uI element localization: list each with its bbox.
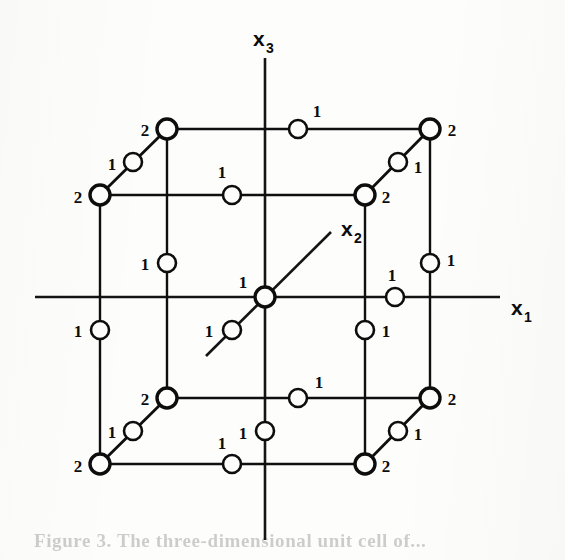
site-multiplicity-label: 1 xyxy=(108,155,117,174)
lattice-site: 2 xyxy=(355,454,390,476)
axis-label-x3-subscript: 3 xyxy=(266,40,274,56)
site-multiplicity-label: 1 xyxy=(205,322,214,341)
site-circle-icon xyxy=(389,422,407,440)
axis-label-x1: x xyxy=(511,296,523,319)
site-multiplicity-label: 1 xyxy=(382,322,391,341)
site-multiplicity-label: 2 xyxy=(141,390,150,409)
lattice-site: 2 xyxy=(141,119,177,140)
site-circle-icon xyxy=(157,119,177,139)
site-circle-icon xyxy=(255,287,275,307)
site-multiplicity-label: 2 xyxy=(74,188,83,207)
site-circle-icon xyxy=(256,422,274,440)
lattice-site: 1 xyxy=(289,373,323,407)
site-multiplicity-label: 1 xyxy=(315,373,324,392)
site-multiplicity-label: 2 xyxy=(382,188,391,207)
lattice-site: 2 xyxy=(74,185,110,207)
lattice-site: 1 xyxy=(389,153,422,177)
lattice-site: 1 xyxy=(289,102,321,138)
site-multiplicity-label: 1 xyxy=(108,423,117,442)
site-multiplicity-label: 2 xyxy=(448,390,457,409)
site-circle-icon xyxy=(355,454,375,474)
site-circle-icon xyxy=(223,455,241,473)
lattice-site: 2 xyxy=(141,388,177,409)
site-circle-icon xyxy=(421,254,439,272)
lattice-site: 1 xyxy=(421,251,455,272)
axis-label-x1-subscript: 1 xyxy=(524,309,532,325)
lattice-site: 1 xyxy=(239,422,274,443)
site-multiplicity-label: 1 xyxy=(414,425,423,444)
site-multiplicity-label: 1 xyxy=(388,266,397,285)
axis-label-x3: x xyxy=(253,27,265,50)
site-multiplicity-label: 1 xyxy=(74,322,83,341)
site-circle-icon xyxy=(389,153,407,171)
site-circle-icon xyxy=(223,321,241,339)
site-circle-icon xyxy=(90,454,110,474)
site-multiplicity-label: 1 xyxy=(239,424,248,443)
site-circle-icon xyxy=(91,321,109,339)
site-multiplicity-label: 2 xyxy=(448,121,457,140)
lattice-site: 1 xyxy=(141,254,176,274)
site-multiplicity-label: 1 xyxy=(218,163,227,182)
lattice-site: 2 xyxy=(420,119,456,140)
lattice-site: 1 xyxy=(386,266,404,306)
site-circle-icon xyxy=(223,186,241,204)
figure-canvas: 212112121111111212111212 x 1 x 2 x 3 Fig… xyxy=(0,0,565,560)
lattice-site: 1 xyxy=(356,321,390,341)
site-circle-icon xyxy=(289,389,307,407)
site-circle-icon xyxy=(158,254,176,272)
lattice-site: 2 xyxy=(355,185,390,207)
site-circle-icon xyxy=(356,321,374,339)
site-multiplicity-label: 1 xyxy=(414,158,423,177)
site-multiplicity-label: 1 xyxy=(218,434,227,453)
figure-caption: Figure 3. The three-dimensional unit cel… xyxy=(34,530,554,552)
axis-label-x2: x xyxy=(341,217,353,240)
lattice-site: 1 xyxy=(389,422,422,444)
site-multiplicity-label: 2 xyxy=(74,457,83,476)
site-circle-icon xyxy=(420,119,440,139)
site-multiplicity-label: 1 xyxy=(141,255,150,274)
site-circle-icon xyxy=(157,388,177,408)
site-circle-icon xyxy=(289,120,307,138)
site-multiplicity-label: 1 xyxy=(447,251,456,270)
site-multiplicity-label: 2 xyxy=(141,121,150,140)
site-circle-icon xyxy=(386,288,404,306)
cube-axes-diagram: 212112121111111212111212 x 1 x 2 x 3 xyxy=(0,0,565,560)
lattice-site: 2 xyxy=(420,388,456,409)
site-multiplicity-label: 1 xyxy=(239,273,248,292)
site-circle-icon xyxy=(124,422,142,440)
site-circle-icon xyxy=(124,153,142,171)
site-circle-icon xyxy=(420,388,440,408)
site-multiplicity-label: 2 xyxy=(382,457,391,476)
site-circle-icon xyxy=(355,185,375,205)
lattice-site: 1 xyxy=(239,273,275,307)
lattice-site: 1 xyxy=(218,434,241,473)
site-circle-icon xyxy=(90,185,110,205)
axis-label-x2-subscript: 2 xyxy=(354,230,362,246)
lattice-site: 2 xyxy=(74,454,110,476)
lattice-site: 1 xyxy=(74,321,109,341)
lattice-site: 1 xyxy=(218,163,241,204)
site-multiplicity-label: 1 xyxy=(313,102,322,121)
caption-strip: Figure 3. The three-dimensional unit cel… xyxy=(0,526,565,560)
